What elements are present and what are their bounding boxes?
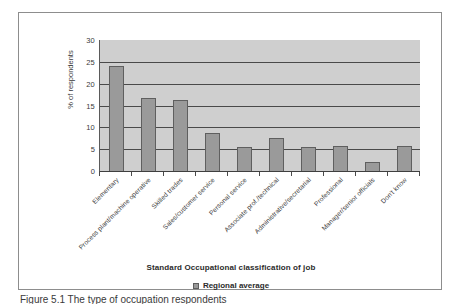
figure-container: % of respondents 30 25 20 15 10 5 0 (0, 0, 462, 304)
legend-swatch-icon (193, 283, 199, 289)
bar (397, 146, 412, 171)
x-tick-mark (419, 172, 420, 176)
x-tick-label: Manager/senior officials (320, 176, 376, 232)
bar (173, 100, 188, 171)
bar (237, 147, 252, 171)
x-tick-label: Skilled trades (150, 176, 184, 210)
x-tick-mark (291, 172, 292, 176)
x-tick-mark (355, 172, 356, 176)
x-tick-label: Don't know (379, 176, 408, 205)
x-tick-label: Associate prof./technical (223, 176, 280, 233)
figure-frame: % of respondents 30 25 20 15 10 5 0 (18, 12, 442, 290)
x-tick-mark (163, 172, 164, 176)
bar (301, 147, 316, 171)
y-tick-label: 30 (86, 36, 95, 45)
x-tick-mark (323, 172, 324, 176)
bar (205, 133, 220, 171)
figure-caption: Figure 5.1 The type of occupation respon… (20, 294, 227, 304)
x-tick-label: Professional (312, 176, 343, 207)
x-axis-title: Standard Occupational classification of … (19, 263, 443, 272)
chart-legend: Regional average (19, 281, 443, 290)
x-tick-label: Process plant/machine operative (77, 176, 152, 251)
y-tick-label: 20 (86, 79, 95, 88)
x-tick-mark (99, 172, 100, 176)
y-axis-ticks: 30 25 20 15 10 5 0 (71, 40, 95, 171)
x-tick-mark (131, 172, 132, 176)
y-tick-label: 15 (86, 101, 95, 110)
bar (141, 98, 156, 171)
x-tick-mark (259, 172, 260, 176)
y-tick-label: 5 (91, 145, 95, 154)
x-tick-mark (227, 172, 228, 176)
plot-area (99, 40, 420, 172)
x-tick-label: Administrative/secretarial (253, 176, 312, 235)
x-tick-mark (195, 172, 196, 176)
legend-label: Regional average (203, 281, 269, 290)
bar-series-regional-average (100, 40, 420, 171)
bar (109, 66, 124, 171)
bar (269, 138, 284, 171)
y-tick-label: 10 (86, 123, 95, 132)
y-tick-label: 25 (86, 57, 95, 66)
y-tick-label: 0 (91, 167, 95, 176)
bar (365, 162, 380, 171)
x-tick-label: Elementary (91, 176, 120, 205)
bar (333, 146, 348, 171)
x-tick-mark (387, 172, 388, 176)
